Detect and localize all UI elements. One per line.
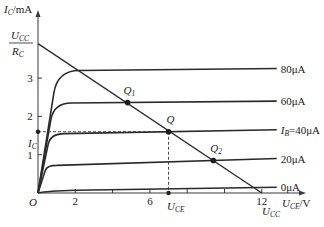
x-tick-label-2: 2 bbox=[73, 195, 79, 207]
uce-label: UCE bbox=[167, 200, 185, 214]
uce-axis-dot bbox=[166, 191, 170, 195]
curve-label-60ua: 60μA bbox=[281, 95, 306, 107]
curve-label-0ua: 0μA bbox=[281, 181, 300, 193]
x-tick-label-6: 6 bbox=[147, 195, 153, 207]
point-q bbox=[166, 129, 172, 135]
y-tick-label-2: 2 bbox=[27, 110, 33, 122]
origin-label: O bbox=[29, 196, 37, 208]
curve-40ua bbox=[38, 130, 277, 193]
point-label-q2: Q2 bbox=[210, 142, 222, 156]
curve-label-80ua: 80μA bbox=[281, 63, 306, 75]
operating-points: Q1QQ2 bbox=[124, 84, 223, 164]
point-label-q: Q bbox=[167, 113, 175, 125]
transistor-output-characteristics-diagram: 2612 123 80μA60μAIB=40μA20μA0μA Q1QQ2 IC… bbox=[0, 0, 324, 227]
load-line-group bbox=[36, 44, 262, 196]
load-line bbox=[38, 44, 262, 193]
ucc-over-rc-label: UCC RC bbox=[9, 29, 33, 59]
ic-axis-dot bbox=[36, 130, 40, 134]
point-q1 bbox=[125, 100, 131, 106]
y-axis-label: IC/mA bbox=[3, 3, 32, 17]
curve-labels: 80μA60μAIB=40μA20μA0μA bbox=[280, 63, 320, 194]
curve-0ua bbox=[38, 187, 277, 193]
point-label-q1: Q1 bbox=[124, 84, 136, 98]
curve-label-40ua: IB=40μA bbox=[280, 124, 320, 138]
y-axis-arrow-icon bbox=[36, 10, 41, 17]
ucc-label: UCC bbox=[262, 205, 281, 219]
ic-label: IC bbox=[27, 137, 38, 151]
ucc-numerator: UCC bbox=[11, 29, 30, 43]
rc-denominator: RC bbox=[11, 45, 25, 59]
curve-label-20ua: 20μA bbox=[281, 153, 306, 165]
y-tick-label-3: 3 bbox=[27, 72, 33, 84]
point-q2 bbox=[211, 158, 217, 164]
x-axis-label: UCE/V bbox=[282, 197, 311, 211]
characteristic-curves bbox=[38, 69, 277, 193]
